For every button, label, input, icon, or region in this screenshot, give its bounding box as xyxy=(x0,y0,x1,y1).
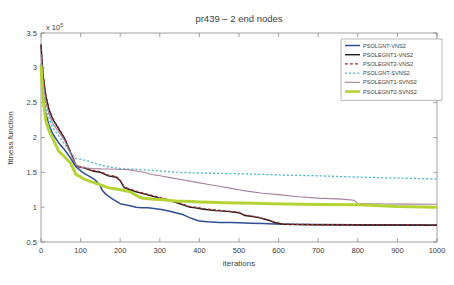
x-tick-label: 500 xyxy=(233,246,246,255)
legend[interactable]: PSOLGNT-VNS2PSOLEGNT1-VNS2PSOLEGNT2-VNS2… xyxy=(341,39,442,100)
x-tick-label: 1000 xyxy=(429,246,446,255)
chart-title: pr439 – 2 end nodes xyxy=(195,13,282,24)
y-tick-label: 1 xyxy=(33,203,37,212)
x-tick-label: 900 xyxy=(391,246,404,255)
x-tick-label: 600 xyxy=(272,246,285,255)
x-tick-label: 0 xyxy=(39,246,43,255)
legend-label[interactable]: PSOLGNT-SVNS2 xyxy=(363,70,410,76)
legend-label[interactable]: PSOLEGNT1-SVNS2 xyxy=(363,79,417,85)
x-tick-label: 100 xyxy=(74,246,87,255)
x-tick-label: 300 xyxy=(154,246,167,255)
x-tick-label: 700 xyxy=(312,246,325,255)
y-tick-label: 3 xyxy=(33,63,37,72)
legend-label[interactable]: PSOLEGNT2-VNS2 xyxy=(363,61,413,67)
y-tick-label: 2 xyxy=(33,133,37,142)
y-tick-label: 1.5 xyxy=(27,168,37,177)
x-axis-label: iterations xyxy=(223,259,255,268)
figure-canvas: pr439 – 2 end nodes x 105 01002003004005… xyxy=(0,0,454,285)
x-tick-label: 400 xyxy=(193,246,206,255)
y-tick-label: 2.5 xyxy=(27,98,37,107)
y-tick-label: 0.5 xyxy=(27,238,37,247)
x-tick-label: 200 xyxy=(114,246,127,255)
y-tick-label: 3.5 xyxy=(27,29,37,38)
x-tick-label: 800 xyxy=(352,246,365,255)
legend-label[interactable]: PSOLGNT-VNS2 xyxy=(363,43,406,49)
y-axis-label: fitness function xyxy=(6,111,15,164)
legend-label[interactable]: PSOLEGNT1-VNS2 xyxy=(363,52,413,58)
legend-label[interactable]: PSOLEGNT2-SVNS2 xyxy=(363,89,417,95)
